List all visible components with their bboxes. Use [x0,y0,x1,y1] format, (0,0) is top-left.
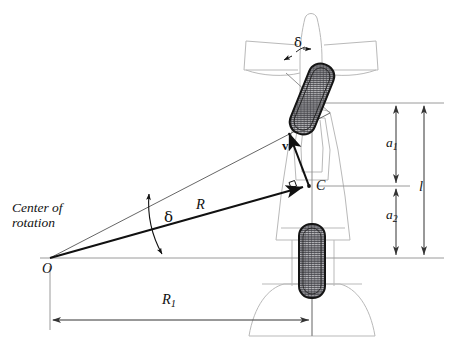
handlebar-left-body [244,41,298,70]
handlebar-top-right [324,41,376,45]
radius-R1-subscript: 1 [171,298,176,309]
radius-R1-label: R1 [162,291,176,310]
steer-angle-label: δ [164,209,173,226]
diagram-canvas [0,0,452,343]
handlebar-right-body [324,41,378,70]
center-of-rotation-label: Center of rotation [12,200,63,230]
handlebar-left-lower-curve [246,70,300,75]
cg-point-marker [307,184,311,188]
radius-vector-R [50,187,303,258]
dist-a1-label: a1 [386,135,398,153]
steer-angle-top-arrow-left [284,56,292,60]
reference-lines [40,103,444,336]
dist-a1-subscript: 1 [393,141,398,152]
cg-label: C [316,178,325,194]
steer-angle-top-label: δ [294,36,302,51]
handlebar-top-left [246,41,298,45]
front-tire [286,60,338,138]
front-wheel [286,60,338,138]
wheelbase-label: l [419,178,423,194]
dist-a1-base: a [386,135,393,150]
cornering-kinematics-diagram: Center of rotation O C R R1 l a1 a2 δ δ … [0,0,452,343]
origin-label: O [42,261,52,277]
radius-R1-base: R [162,291,171,307]
rear-wheel [299,224,325,298]
velocity-label: v [282,139,289,154]
center-of-rotation-line1: Center of [12,200,63,215]
line-O-to-front-wheel [50,113,330,258]
body-right-edge [330,112,350,240]
right-angle-marker [289,181,297,189]
body-nose-tip [305,14,317,19]
velocity-vector-v [289,133,309,186]
center-of-rotation-line2: rotation [12,215,63,230]
dist-a2-subscript: 2 [393,213,398,224]
radius-R-label: R [196,196,205,212]
dist-a2-base: a [386,207,393,222]
dist-a2-label: a2 [386,207,398,225]
